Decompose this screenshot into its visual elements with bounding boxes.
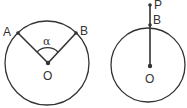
point-B <box>74 31 78 35</box>
central-angle-figure: A B O α <box>3 21 89 105</box>
label-alpha: α <box>43 35 51 48</box>
point-O <box>148 64 152 68</box>
angle-arc <box>37 48 58 52</box>
label-B: B <box>153 13 161 27</box>
label-P: P <box>154 0 162 12</box>
point-B <box>148 23 152 27</box>
label-A: A <box>3 25 11 39</box>
label-B: B <box>80 24 88 38</box>
right-circle <box>111 28 185 102</box>
diagram-canvas: A B O α P B O <box>0 0 187 108</box>
point-P <box>148 3 152 7</box>
point-A <box>16 31 20 35</box>
label-O: O <box>43 69 52 83</box>
label-O: O <box>145 72 154 86</box>
point-O <box>46 61 50 65</box>
external-point-figure: P B O <box>111 0 185 102</box>
